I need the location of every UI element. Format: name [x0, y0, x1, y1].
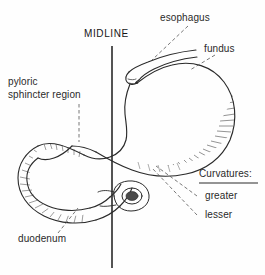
stomach-anatomy-figure: MIDLINE esophagus fundus pyloric sphinct… — [0, 0, 265, 275]
label-pyloric-line2: sphincter region — [8, 89, 81, 102]
label-curvature-lesser: lesser — [205, 209, 232, 221]
duodenum-hatching — [20, 150, 83, 223]
label-pyloric-line1: pyloric — [8, 76, 38, 89]
label-esophagus: esophagus — [160, 12, 210, 24]
leader-greater — [156, 166, 197, 196]
esophagus-structure — [126, 50, 197, 84]
leader-lines — [58, 26, 215, 233]
stomach-body — [72, 63, 235, 176]
label-midline: MIDLINE — [84, 28, 129, 40]
label-curvatures-heading: Curvatures: — [199, 168, 252, 180]
duodenal-cross-section — [98, 181, 149, 211]
label-fundus: fundus — [204, 43, 235, 55]
label-duodenum: duodenum — [18, 233, 66, 245]
leader-duodenum — [58, 208, 78, 233]
stomach-inner-texture — [138, 162, 180, 172]
label-curvature-greater: greater — [205, 190, 237, 202]
